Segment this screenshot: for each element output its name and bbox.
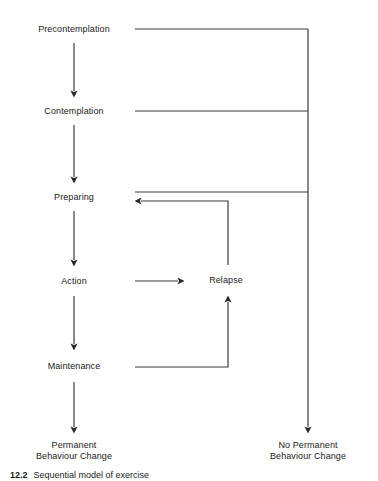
edge-relapse-to-preparing <box>141 201 228 265</box>
node-preparing[interactable]: Preparing <box>13 183 135 211</box>
node-permanent-behaviour-change-label: Permanent Behaviour Change <box>34 440 114 462</box>
node-relapse-label: Relapse <box>207 275 245 286</box>
node-contemplation[interactable]: Contemplation <box>13 97 135 125</box>
figure-caption: 12.2Sequential model of exercise <box>10 470 370 481</box>
figure-caption-number: 12.2 <box>10 470 28 480</box>
node-no-permanent-behaviour-change[interactable]: No Permanent Behaviour Change <box>248 433 368 468</box>
node-permanent-behaviour-change[interactable]: Permanent Behaviour Change <box>13 433 135 468</box>
node-contemplation-label: Contemplation <box>42 106 105 117</box>
node-no-permanent-behaviour-change-label: No Permanent Behaviour Change <box>268 440 348 462</box>
node-action[interactable]: Action <box>13 266 135 296</box>
edge-maintenance-to-relapse <box>135 302 228 367</box>
node-maintenance[interactable]: Maintenance <box>13 350 135 382</box>
node-preparing-label: Preparing <box>52 192 96 203</box>
node-action-label: Action <box>59 276 89 287</box>
node-precontemplation-label: Precontemplation <box>36 24 112 35</box>
figure-caption-text: Sequential model of exercise <box>34 470 150 480</box>
node-maintenance-label: Maintenance <box>46 361 103 372</box>
node-relapse[interactable]: Relapse <box>184 265 268 296</box>
node-precontemplation[interactable]: Precontemplation <box>13 15 135 43</box>
